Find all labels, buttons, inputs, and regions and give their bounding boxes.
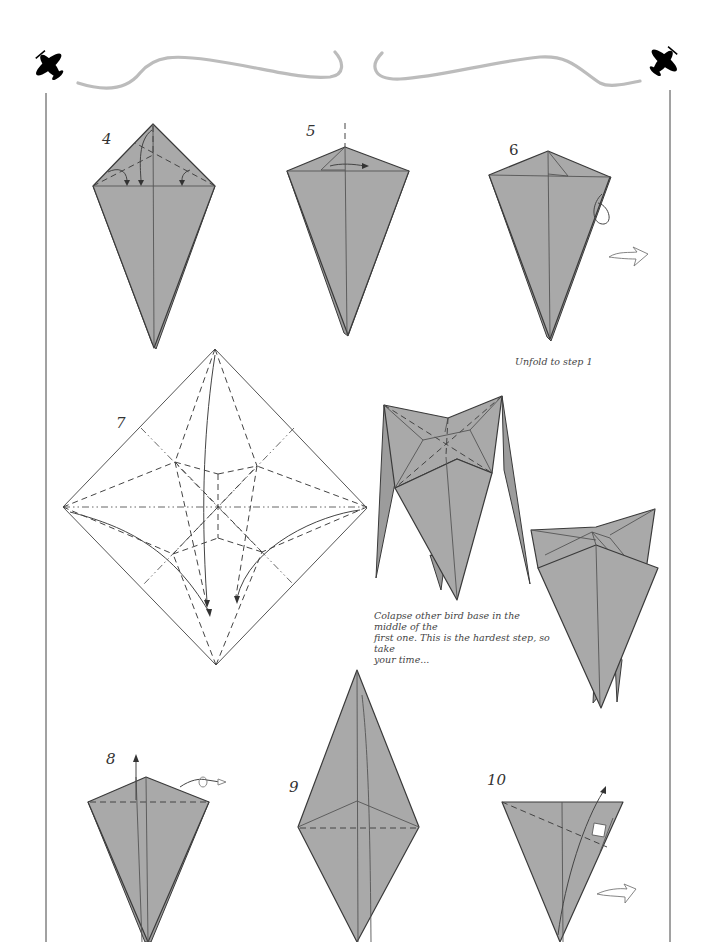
step-number-5: 5 [306, 122, 316, 140]
step-number-9: 9 [289, 778, 299, 796]
step-7-crease-pattern [63, 349, 367, 665]
step-4-diagram [93, 124, 215, 349]
caption-collapse-line-3: your time... [374, 654, 554, 665]
collapse-diagram-2 [531, 509, 658, 708]
step-6-diagram [489, 151, 648, 341]
caption-collapse-line-2: first one. This is the hardest step, so … [374, 632, 554, 654]
step-number-6: 6 [509, 141, 519, 159]
step-number-10: 10 [487, 771, 506, 789]
step-8-diagram [88, 754, 226, 942]
step-5-diagram [287, 123, 409, 336]
step-10-diagram [502, 786, 636, 942]
airplane-icon [641, 40, 684, 83]
step-number-7: 7 [116, 414, 126, 432]
caption-collapse-line-1: Colapse other bird base in the middle of… [374, 610, 554, 632]
airplane-icon [28, 44, 71, 87]
step-number-4: 4 [102, 130, 112, 148]
swoosh-right [375, 53, 640, 85]
step-9-diagram [298, 670, 419, 942]
swoosh-left [78, 52, 342, 88]
caption-collapse: Colapse other bird base in the middle of… [374, 610, 554, 665]
caption-unfold: Unfold to step 1 [515, 356, 593, 367]
collapse-diagram-1 [376, 396, 530, 600]
step-number-8: 8 [106, 750, 116, 768]
